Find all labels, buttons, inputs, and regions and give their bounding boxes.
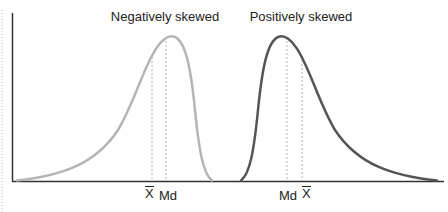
neg-mean-label: X: [145, 186, 154, 201]
pos-mean-label: X: [302, 186, 311, 201]
pos-median-label: Md: [279, 188, 297, 203]
negatively-skewed-title: Negatively skewed: [111, 9, 219, 24]
positively-skewed-curve: [241, 36, 437, 180]
positively-skewed-title: Positively skewed: [250, 9, 353, 24]
skewness-diagram: [0, 0, 448, 212]
neg-median-label: Md: [159, 188, 177, 203]
pos-mean-symbol: X: [302, 186, 311, 200]
negatively-skewed-curve: [17, 36, 212, 180]
neg-mean-symbol: X: [145, 186, 154, 200]
